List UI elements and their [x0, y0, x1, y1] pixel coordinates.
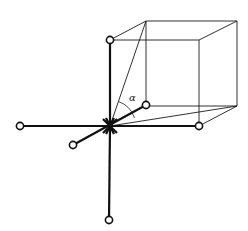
axes — [20, 40, 199, 220]
node-front-icon — [69, 141, 76, 148]
node-back-icon — [142, 101, 149, 108]
axis-down — [109, 126, 110, 220]
node-left-icon — [16, 122, 23, 129]
cube-edges — [110, 21, 237, 126]
node-top-icon — [106, 36, 113, 43]
node-bottom-icon — [105, 216, 112, 223]
angle-alpha-label: α — [129, 92, 136, 103]
diagonals — [110, 21, 237, 126]
cube-edge — [199, 21, 237, 40]
node-right-icon — [195, 122, 202, 129]
octahedral-cube-diagram: α — [0, 0, 248, 231]
